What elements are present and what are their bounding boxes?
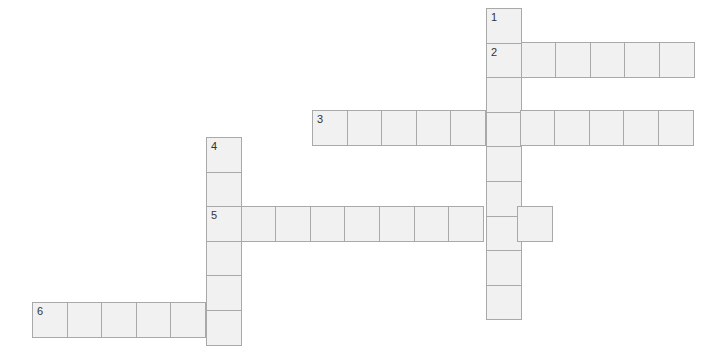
crossword-cell[interactable]: [206, 241, 242, 277]
crossword-cell[interactable]: [486, 285, 522, 321]
crossword-cell[interactable]: [275, 206, 311, 242]
crossword-cell[interactable]: [448, 206, 484, 242]
clue-number-2: 2: [491, 46, 497, 58]
crossword-cell[interactable]: [623, 110, 659, 146]
clue-number-1: 1: [491, 11, 497, 23]
crossword-cell[interactable]: [416, 110, 452, 146]
crossword-cell[interactable]: [101, 302, 137, 338]
crossword-cell[interactable]: [590, 42, 626, 78]
crossword-cell[interactable]: 3: [312, 110, 348, 146]
crossword-cell[interactable]: [589, 110, 625, 146]
crossword-cell[interactable]: 5: [206, 206, 242, 242]
crossword-cell[interactable]: 4: [206, 137, 242, 173]
crossword-grid: 123456: [0, 0, 728, 356]
crossword-cell[interactable]: [414, 206, 450, 242]
crossword-cell[interactable]: [658, 110, 694, 146]
crossword-cell[interactable]: [517, 206, 553, 242]
crossword-cell[interactable]: [170, 302, 206, 338]
crossword-cell[interactable]: [344, 206, 380, 242]
crossword-cell[interactable]: [206, 275, 242, 311]
crossword-cell[interactable]: [310, 206, 346, 242]
crossword-cell[interactable]: [206, 172, 242, 208]
clue-number-6: 6: [37, 305, 43, 317]
crossword-cell[interactable]: [486, 77, 522, 113]
crossword-cell[interactable]: [347, 110, 383, 146]
clue-number-4: 4: [211, 140, 217, 152]
crossword-cell[interactable]: [379, 206, 415, 242]
crossword-cell[interactable]: [554, 110, 590, 146]
crossword-cell[interactable]: [486, 112, 522, 148]
crossword-cell[interactable]: [520, 110, 556, 146]
crossword-cell[interactable]: [241, 206, 277, 242]
crossword-cell[interactable]: [486, 146, 522, 182]
crossword-cell[interactable]: [486, 181, 522, 217]
crossword-cell[interactable]: [624, 42, 660, 78]
crossword-cell[interactable]: [486, 250, 522, 286]
crossword-cell[interactable]: [521, 42, 557, 78]
crossword-cell[interactable]: [486, 216, 522, 252]
crossword-cell[interactable]: 6: [32, 302, 68, 338]
crossword-cell[interactable]: [555, 42, 591, 78]
crossword-cell[interactable]: [206, 310, 242, 346]
crossword-cell[interactable]: [659, 42, 695, 78]
crossword-cell[interactable]: 2: [486, 43, 522, 79]
clue-number-5: 5: [211, 209, 217, 221]
crossword-cell[interactable]: [450, 110, 486, 146]
crossword-cell[interactable]: 1: [486, 8, 522, 44]
clue-number-3: 3: [317, 113, 323, 125]
crossword-cell[interactable]: [136, 302, 172, 338]
crossword-cell[interactable]: [381, 110, 417, 146]
crossword-cell[interactable]: [67, 302, 103, 338]
